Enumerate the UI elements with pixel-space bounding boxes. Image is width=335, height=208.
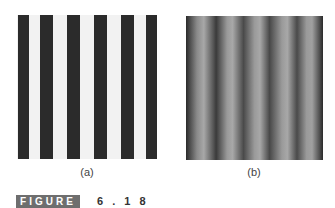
- figure-number: 6 . 1 8: [97, 195, 149, 208]
- panel-a-caption: (a): [67, 166, 107, 178]
- panel-b-sinusoidal-grating-image: [186, 16, 323, 160]
- dark-bar: [121, 15, 134, 159]
- panel-b-caption: (b): [234, 166, 274, 178]
- dark-bar: [18, 15, 29, 159]
- dark-bar: [146, 15, 157, 159]
- dark-bar: [94, 15, 107, 159]
- dark-bar: [40, 15, 53, 159]
- figure-label-badge: FIGURE: [16, 195, 80, 208]
- dark-bar: [67, 15, 80, 159]
- panel-a-square-wave-image: [17, 15, 157, 159]
